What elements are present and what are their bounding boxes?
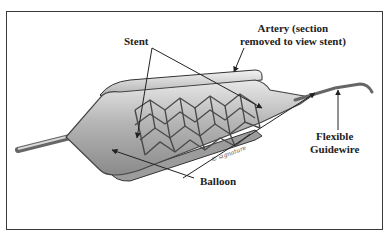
label-artery-line1: Artery (section (240, 22, 346, 35)
label-stent-text: Stent (124, 35, 148, 47)
label-guidewire-line1: Flexible (310, 130, 359, 143)
label-guidewire-line2: Guidewire (310, 143, 359, 156)
guidewire-left (18, 136, 70, 150)
label-artery-line2: removed to view stent) (240, 35, 346, 48)
label-balloon: Balloon (200, 175, 236, 188)
label-balloon-text: Balloon (200, 175, 236, 187)
label-artery: Artery (section removed to view stent) (240, 22, 346, 48)
label-stent: Stent (124, 35, 148, 48)
label-guidewire: Flexible Guidewire (310, 130, 359, 156)
guidewire-right (295, 84, 372, 100)
